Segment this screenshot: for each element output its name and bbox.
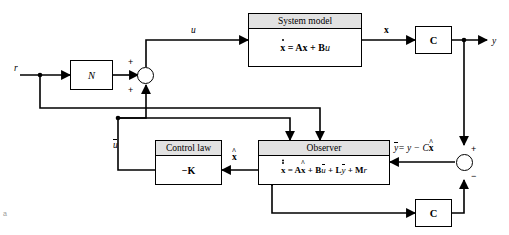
innovation-eq: = y − C [398, 143, 429, 153]
observer-eq-plus-l: + L [328, 165, 341, 175]
observer-eq-plus-m: + M [348, 165, 364, 175]
innovation-ybar: y [394, 143, 398, 153]
block-control-law[interactable]: Control law −K [155, 140, 222, 185]
signal-label-control-law-output: u [113, 140, 118, 150]
output-sum-sign-bottom: − [471, 172, 476, 181]
control-block-diagram: System model x = Ax + Bu Observer x = Ax… [0, 0, 509, 235]
wire-xhat-to-C-bottom [272, 185, 415, 213]
signal-label-control-input: u [191, 25, 196, 35]
block-system-model-title: System model [249, 14, 361, 29]
block-observer-title: Observer [259, 141, 389, 156]
signal-label-output: y [492, 36, 496, 46]
observer-ubar: u [321, 165, 326, 175]
observer-xhatdot: x [281, 165, 286, 175]
wire-u-to-system-model [146, 40, 248, 67]
block-control-law-gain: −K [156, 156, 221, 184]
system-model-equation-u: u [325, 42, 330, 53]
block-output-matrix-top[interactable]: C [415, 26, 452, 54]
block-control-law-title: Control law [156, 141, 221, 156]
system-model-xdot: x [280, 42, 285, 53]
block-system-model-equation: x = Ax + Bu [249, 29, 361, 66]
signal-label-reference: r [14, 63, 18, 73]
block-output-matrix-bottom[interactable]: C [415, 199, 452, 227]
innovation-xhat: x [429, 143, 434, 153]
signal-label-innovation: y= y − Cx [394, 143, 433, 153]
summing-junction-input[interactable] [137, 67, 154, 84]
system-model-equation-rest: = Ax + B [288, 42, 325, 53]
input-sum-sign-left: + [128, 58, 133, 67]
block-system-model[interactable]: System model x = Ax + Bu [248, 13, 362, 67]
signal-label-state: x [384, 25, 389, 35]
block-observer[interactable]: Observer x = Ax + Bu + Ly + Mr [258, 140, 390, 185]
wire-Cxhat-to-output-sum [452, 180, 464, 213]
wire-ubar-to-observer [118, 118, 290, 140]
junction-dot-ubar [116, 116, 121, 121]
summing-junction-output[interactable] [456, 154, 473, 171]
observer-eq-plus-b: + B [308, 165, 321, 175]
observer-r: r [364, 165, 368, 175]
block-gain-N[interactable]: N [70, 60, 113, 90]
input-sum-sign-bottom: + [128, 86, 133, 95]
figure-corner-mark: a [3, 210, 7, 217]
signal-label-state-estimate: x [232, 152, 237, 162]
block-observer-equation: x = Ax + Bu + Ly + Mr [259, 156, 389, 184]
junction-dot-r [38, 73, 43, 78]
observer-eq-a: = A [288, 165, 301, 175]
wire-ubar-to-input-sum [118, 85, 155, 170]
observer-ybar: y [341, 165, 345, 175]
junction-dot-y [462, 38, 467, 43]
output-sum-sign-top: + [471, 145, 476, 154]
observer-xhat: x [301, 165, 306, 175]
